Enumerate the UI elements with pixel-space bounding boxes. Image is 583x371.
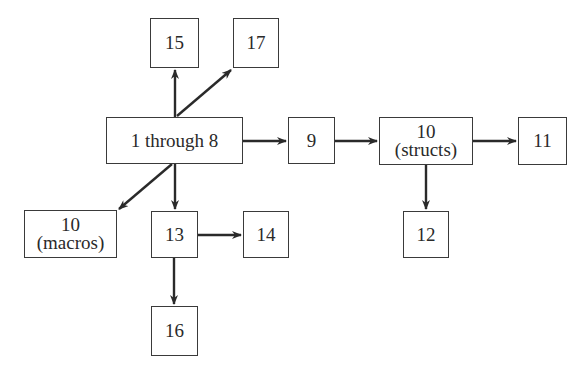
node-10-macros: 10 (macros): [24, 210, 117, 258]
node-label: 13: [165, 226, 184, 244]
node-sublabel: (macros): [37, 234, 105, 252]
node-13: 13: [151, 211, 198, 258]
node-16: 16: [151, 306, 198, 356]
edge-1-8-to-17: [177, 70, 231, 116]
node-9: 9: [288, 117, 335, 164]
node-label: 17: [247, 34, 266, 52]
edge-1-8-to-10-macros: [119, 164, 172, 209]
node-label: 12: [417, 226, 436, 244]
node-label: 14: [257, 226, 276, 244]
node-1-through-8: 1 through 8: [106, 117, 243, 164]
node-11: 11: [518, 117, 567, 165]
edges-layer: [0, 0, 583, 371]
node-15: 15: [150, 18, 199, 68]
node-17: 17: [233, 18, 279, 68]
node-label: 9: [307, 132, 317, 150]
node-12: 12: [403, 211, 449, 258]
node-label: 1 through 8: [131, 132, 219, 150]
node-sublabel: (structs): [395, 141, 457, 159]
node-label: 15: [165, 34, 184, 52]
node-label: 11: [533, 132, 551, 150]
node-14: 14: [243, 211, 289, 258]
node-label: 16: [165, 322, 184, 340]
node-10-structs: 10 (structs): [379, 117, 473, 165]
